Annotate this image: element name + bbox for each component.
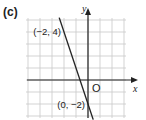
point-annotation: (−2, 4) [33,26,61,37]
x-axis-label: x [132,83,138,94]
y-axis-label: y [81,3,87,14]
labels: yxO(−2, 4)(0, −2) [33,3,138,110]
graph: yxO(−2, 4)(0, −2) [0,0,146,120]
origin-label: O [92,82,101,94]
point-annotation: (0, −2) [57,99,85,110]
